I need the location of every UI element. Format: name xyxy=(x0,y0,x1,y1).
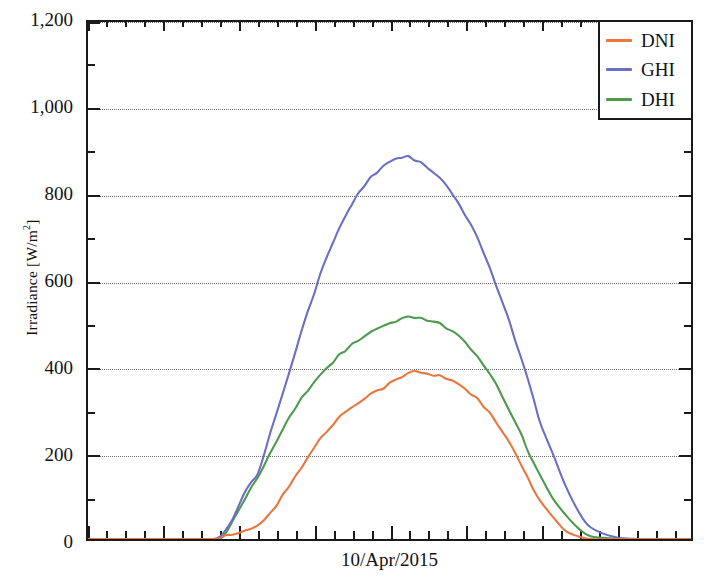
legend-label-dhi: DHI xyxy=(641,90,675,109)
y-axis-tick-labels: 1,200 1,000 800 600 400 200 0 xyxy=(3,0,73,582)
x-axis-title: 10/Apr/2015 xyxy=(86,549,693,571)
y-tick-label-0: 0 xyxy=(5,532,73,551)
legend-label-dni: DNI xyxy=(641,31,675,50)
legend-item-dni[interactable]: DNI xyxy=(600,28,691,54)
series-line-ghi xyxy=(88,156,691,539)
legend-item-dhi[interactable]: DHI xyxy=(600,86,691,112)
legend-label-ghi: GHI xyxy=(641,60,675,79)
legend-swatch-dhi xyxy=(606,98,632,101)
y-tick-label-1000: 1,000 xyxy=(5,97,73,116)
legend-swatch-ghi xyxy=(606,68,632,71)
legend-swatch-dni xyxy=(606,39,632,42)
y-tick-label-200: 200 xyxy=(5,445,73,464)
y-tick-label-400: 400 xyxy=(5,358,73,377)
y-tick-label-600: 600 xyxy=(5,271,73,290)
series-line-dni xyxy=(88,371,691,539)
y-tick-label-800: 800 xyxy=(5,184,73,203)
y-tick-label-1200: 1,200 xyxy=(5,10,73,29)
series-line-dhi xyxy=(88,317,691,539)
irradiance-chart-figure: Irradiance [W/m2] 1,200 1,000 800 600 40… xyxy=(0,0,708,582)
legend-item-ghi[interactable]: GHI xyxy=(600,57,691,83)
chart-legend: DNI GHI DHI xyxy=(598,20,693,120)
